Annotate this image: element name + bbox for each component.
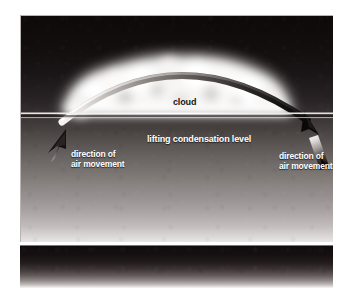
right-air-movement-label-line2: air movement bbox=[279, 162, 332, 172]
cloud-mass bbox=[61, 54, 293, 118]
lower-gradient-band bbox=[20, 245, 333, 288]
lower-band-texture-overlay bbox=[20, 246, 333, 288]
diagram-panel: cloud lifting condensation level directi… bbox=[20, 15, 333, 242]
diagram-graphics bbox=[21, 16, 333, 242]
left-air-movement-label: direction of air movement bbox=[71, 150, 124, 169]
lifting-condensation-level-line bbox=[21, 113, 333, 119]
left-air-movement-label-line2: air movement bbox=[71, 160, 124, 170]
right-air-movement-label: direction of air movement bbox=[279, 152, 332, 171]
lifting-condensation-level-label: lifting condensation level bbox=[147, 134, 251, 144]
cloud-label: cloud bbox=[173, 97, 196, 107]
left-air-movement-arrow bbox=[41, 129, 66, 172]
figure-container: cloud lifting condensation level directi… bbox=[0, 0, 354, 294]
